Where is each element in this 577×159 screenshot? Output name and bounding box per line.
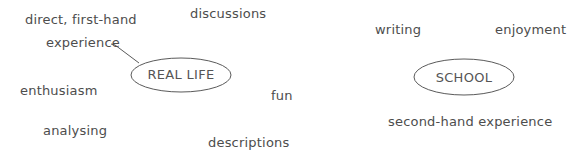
word-analysing: analysing <box>43 124 107 138</box>
word-discussions: discussions <box>190 7 266 21</box>
word-fun: fun <box>271 89 293 103</box>
word-enthusiasm: enthusiasm <box>20 84 98 98</box>
real-life-label: REAL LIFE <box>146 68 216 82</box>
word-writing: writing <box>375 23 421 37</box>
word-descriptions: descriptions <box>208 136 289 150</box>
word-direct-first-hand: direct, first-hand <box>25 13 137 27</box>
word-enjoyment: enjoyment <box>495 23 566 37</box>
word-experience: experience <box>46 36 120 50</box>
school-label: SCHOOL <box>434 71 494 85</box>
word-second-hand-experience: second-hand experience <box>388 115 552 129</box>
mind-map-canvas: REAL LIFE direct, first-hand experience … <box>0 0 577 159</box>
